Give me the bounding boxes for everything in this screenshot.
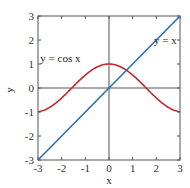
x-tick-label: -3: [33, 162, 43, 174]
x-tick-label: 0: [106, 162, 112, 174]
y-axis-label: y: [3, 87, 15, 93]
y-tick-label: 2: [29, 34, 35, 46]
y-tick-label: 1: [29, 58, 35, 70]
chart: -3-2-10123-3-2-10123 y = cos xy = x x y: [0, 0, 190, 188]
annotation-label: y = cos x: [40, 52, 81, 64]
x-tick-label: 3: [177, 162, 183, 174]
x-tick-label: 1: [130, 162, 136, 174]
y-tick-label: 0: [29, 82, 35, 94]
annotation-label: y = x: [154, 34, 177, 46]
x-tick-label: 2: [154, 162, 160, 174]
y-tick-label: 3: [29, 10, 35, 22]
y-tick-label: -2: [25, 130, 34, 142]
x-axis-label: x: [106, 174, 112, 186]
x-tick-label: -1: [81, 162, 90, 174]
y-tick-label: -3: [25, 154, 35, 166]
x-tick-label: -2: [57, 162, 66, 174]
y-tick-label: -1: [25, 106, 34, 118]
